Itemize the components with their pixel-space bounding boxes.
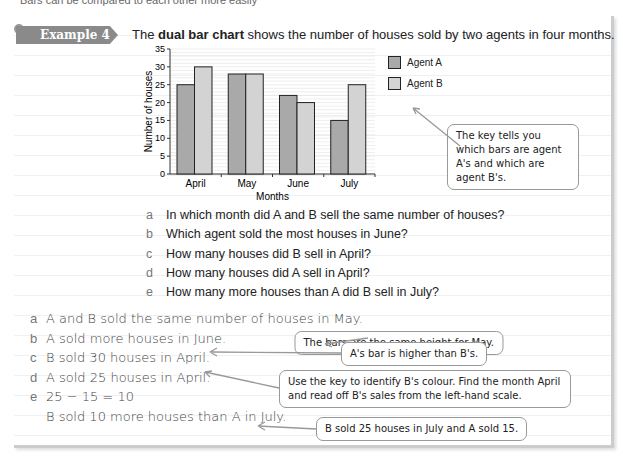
callout-arrows <box>0 0 623 460</box>
